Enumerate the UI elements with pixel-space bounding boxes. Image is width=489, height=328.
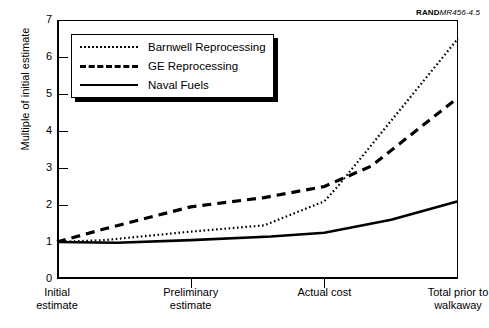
legend-swatch-dashed-icon	[80, 60, 138, 72]
y-tick-label: 5	[26, 88, 52, 99]
y-tick-label: 2	[26, 199, 52, 210]
legend-label: Naval Fuels	[148, 79, 209, 92]
legend-item: Naval Fuels	[80, 76, 209, 94]
source-tag-number: MR456-4.5	[440, 8, 480, 17]
x-category-label: Initial estimate	[0, 286, 117, 312]
y-tick-label: 3	[26, 162, 52, 173]
series-line	[57, 201, 458, 242]
x-category-label: Total prior to walkaway	[398, 286, 489, 312]
legend-swatch-solid-icon	[80, 79, 138, 91]
y-tick-label: 4	[26, 125, 52, 136]
series-line	[57, 98, 458, 242]
x-category-label: Preliminary estimate	[131, 286, 251, 312]
y-tick-label: 7	[26, 14, 52, 25]
y-tick-label: 0	[26, 273, 52, 284]
figure-root: RANDMR456-4.5 Multiple of initial estima…	[0, 0, 489, 328]
y-tick-label: 6	[26, 51, 52, 62]
legend-label: GE Reprocessing	[148, 60, 238, 73]
source-tag: RANDMR456-4.5	[416, 8, 480, 18]
legend-item: Barnwell Reprocessing	[80, 38, 266, 56]
legend: Barnwell ReprocessingGE ReprocessingNava…	[71, 34, 274, 98]
legend-swatch-dotted-icon	[80, 41, 138, 53]
y-tick-label: 1	[26, 236, 52, 247]
source-tag-brand: RAND	[416, 8, 440, 17]
legend-item: GE Reprocessing	[80, 57, 238, 75]
legend-label: Barnwell Reprocessing	[148, 41, 266, 54]
x-category-label: Actual cost	[264, 286, 384, 299]
